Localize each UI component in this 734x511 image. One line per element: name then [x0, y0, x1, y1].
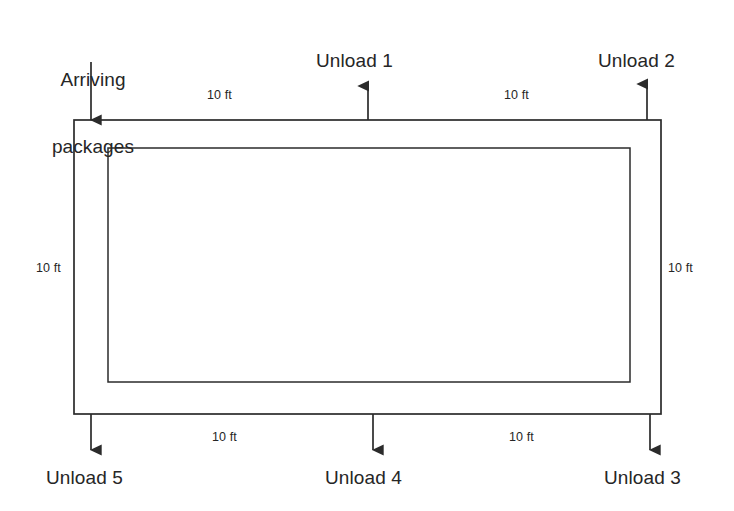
arriving-packages-label: Arriving packages [38, 24, 148, 203]
station-label-unload-1: Unload 1 [316, 50, 393, 72]
outer-conveyor-track [74, 120, 661, 414]
dimension-label-bottom-right: 10 ft [509, 430, 534, 445]
diagram-canvas: Arriving packages Unload 1 Unload 2 Unlo… [0, 0, 734, 511]
dimension-label-bottom-left: 10 ft [212, 430, 237, 445]
station-label-unload-2: Unload 2 [598, 50, 675, 72]
inner-conveyor-track [108, 148, 630, 382]
arriving-packages-label-line2: packages [38, 136, 148, 158]
dimension-label-top-right: 10 ft [504, 88, 529, 103]
station-label-unload-5: Unload 5 [46, 467, 123, 489]
arriving-packages-label-line1: Arriving [38, 69, 148, 91]
station-label-unload-3: Unload 3 [604, 467, 681, 489]
station-label-unload-4: Unload 4 [325, 467, 402, 489]
dimension-label-left: 10 ft [36, 261, 61, 276]
dimension-label-right: 10 ft [668, 261, 693, 276]
dimension-label-top-left: 10 ft [207, 88, 232, 103]
